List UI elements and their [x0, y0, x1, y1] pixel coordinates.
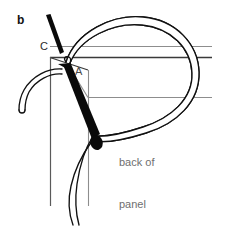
thread-tail-left-inner: [25, 74, 62, 110]
back-of-panel-line-2: panel: [119, 197, 154, 211]
thread-tail-bottom-inner: [76, 136, 93, 225]
figure-container: b C A back of panel: [0, 0, 227, 236]
back-of-panel-annotation: back of panel: [119, 127, 154, 236]
needle-top: [46, 14, 64, 54]
stitch-diagram-svg: [0, 0, 227, 236]
panel-letter-label: b: [17, 14, 24, 26]
back-of-panel-line-1: back of: [119, 155, 154, 169]
thread-tail-left-cap: [19, 110, 25, 113]
point-a-label: A: [75, 66, 82, 77]
point-c-label: C: [40, 41, 48, 52]
needle-top-group: [46, 14, 64, 54]
